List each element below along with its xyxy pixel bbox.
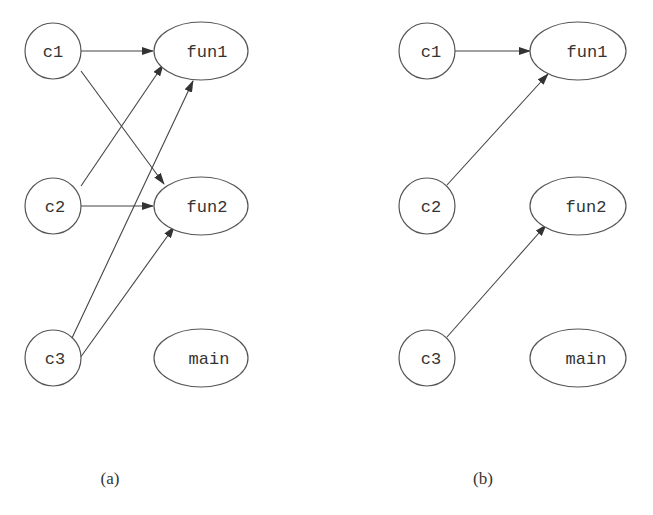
edge-c2-fun1 xyxy=(447,74,548,185)
node-main: main xyxy=(154,329,248,387)
edge-c3-fun2 xyxy=(447,225,546,337)
node-main: main xyxy=(530,329,626,387)
caption-a: (a) xyxy=(101,469,120,488)
node-c1: c1 xyxy=(25,23,81,79)
edge-c2-fun1 xyxy=(81,65,163,186)
node-fun1: fun1 xyxy=(530,22,626,80)
panel-b: c1 fun1 c2 fun2 c3 main (b) xyxy=(399,22,626,488)
node-label: main xyxy=(566,350,607,369)
node-c3: c3 xyxy=(399,330,455,386)
node-label: fun1 xyxy=(567,43,608,62)
caption-b: (b) xyxy=(473,469,493,488)
node-fun2: fun2 xyxy=(154,177,248,235)
node-fun1: fun1 xyxy=(154,22,248,80)
node-c1: c1 xyxy=(399,23,455,79)
node-fun2: fun2 xyxy=(530,177,626,235)
node-label: c2 xyxy=(45,198,65,217)
node-label: c3 xyxy=(45,350,65,369)
call-graph-figure: c1 fun1 c2 fun2 c3 main (a) xyxy=(0,0,653,515)
node-label: main xyxy=(189,350,230,369)
node-label: fun2 xyxy=(187,198,228,217)
panel-a: c1 fun1 c2 fun2 c3 main (a) xyxy=(25,22,248,488)
node-label: c1 xyxy=(43,43,63,62)
node-label: c1 xyxy=(421,43,441,62)
edge-c3-fun2 xyxy=(80,227,174,358)
node-label: fun1 xyxy=(187,43,228,62)
node-c2: c2 xyxy=(399,178,455,234)
node-c2: c2 xyxy=(25,178,81,234)
node-c3: c3 xyxy=(25,330,81,386)
node-label: c3 xyxy=(421,350,441,369)
node-label: fun2 xyxy=(566,198,607,217)
node-label: c2 xyxy=(421,198,441,217)
